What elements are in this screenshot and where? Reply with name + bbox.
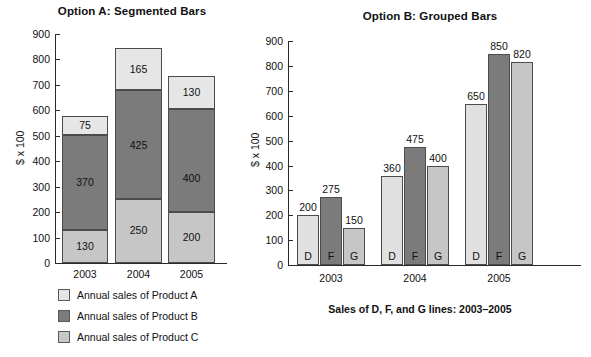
option-a-x-axis (55, 263, 227, 264)
option-b-series-letter-2005-f: F (488, 250, 510, 262)
legend-item-product-b[interactable]: Annual sales of Product B (58, 309, 238, 323)
option-a-y-axis-title: $ x 100 (14, 131, 26, 165)
option-a-seglabel-2004-product-a: 165 (115, 63, 162, 75)
option-a-ytick-label-200: 200 (20, 206, 50, 218)
option-b-y-axis-title: $ x 100 (249, 133, 261, 167)
option-a-tick-200 (56, 212, 60, 213)
option-b-ytick-label-300: 300 (253, 184, 283, 196)
option-a-y-axis (55, 34, 56, 264)
option-b-category-label-2005: 2005 (479, 272, 519, 284)
option-b-series-letter-2003-f: F (320, 250, 342, 262)
option-a-tick-0 (56, 263, 60, 264)
option-b-tick-0 (289, 265, 293, 266)
option-a-tick-300 (56, 187, 60, 188)
option-a-tick-400 (56, 161, 60, 162)
option-b-tick-800 (289, 66, 293, 67)
option-b-value-label-2005-g: 820 (506, 48, 538, 60)
option-a-category-label-2003: 2003 (62, 268, 108, 280)
option-a-category-label-2004: 2004 (115, 268, 162, 280)
chart-panel-option-a: Option A: Segmented Bars 900 800 700 600… (0, 0, 240, 357)
option-b-value-label-2004-g: 400 (422, 152, 454, 164)
option-b-tick-900 (289, 41, 293, 42)
option-b-series-letter-2004-d: D (381, 250, 403, 262)
option-b-plot-area: 900 800 700 600 500 400 300 200 100 0 $ … (240, 0, 591, 300)
option-b-ytick-label-0: 0 (253, 259, 283, 271)
option-a-ytick-label-900: 900 (20, 28, 50, 40)
option-a-seglabel-2003-product-b: 370 (62, 176, 108, 188)
option-b-series-letter-2003-g: G (343, 250, 365, 262)
option-a-tick-500 (56, 136, 60, 137)
option-b-x-axis (288, 265, 581, 266)
legend-item-product-a[interactable]: Annual sales of Product A (58, 288, 238, 302)
option-a-ytick-label-800: 800 (20, 53, 50, 65)
option-a-seglabel-2005-product-b: 400 (168, 172, 215, 184)
option-b-category-label-2004: 2004 (395, 272, 435, 284)
legend-swatch-product-c (58, 331, 70, 343)
option-b-series-letter-2005-g: G (511, 250, 533, 262)
option-b-category-label-2003: 2003 (311, 272, 351, 284)
option-b-series-letter-2004-g: G (427, 250, 449, 262)
option-b-tick-300 (289, 190, 293, 191)
option-a-tick-900 (56, 34, 60, 35)
legend-label-product-a: Annual sales of Product A (77, 288, 197, 302)
option-b-value-label-2004-f: 475 (399, 133, 431, 145)
legend-label-product-b: Annual sales of Product B (77, 309, 198, 323)
option-b-value-label-2003-f: 275 (315, 183, 347, 195)
option-b-tick-400 (289, 166, 293, 167)
option-b-ytick-label-200: 200 (253, 209, 283, 221)
chart-panel-option-b: Option B: Grouped Bars 900 800 700 600 5… (240, 0, 591, 357)
option-b-bar-2005-d[interactable] (465, 104, 487, 265)
option-a-tick-600 (56, 110, 60, 111)
option-b-bar-2004-f[interactable] (404, 147, 426, 265)
legend-swatch-product-b (58, 310, 70, 322)
option-b-tick-100 (289, 240, 293, 241)
legend-label-product-c: Annual sales of Product C (77, 330, 198, 344)
option-a-ytick-label-300: 300 (20, 181, 50, 193)
option-a-legend: Annual sales of Product A Annual sales o… (58, 288, 238, 348)
option-a-plot-area: 900 800 700 600 500 400 300 200 100 0 $ … (0, 0, 240, 290)
option-b-bar-2005-g[interactable] (511, 62, 533, 265)
option-a-ytick-label-100: 100 (20, 232, 50, 244)
legend-swatch-product-a (58, 289, 70, 301)
option-a-category-label-2005: 2005 (168, 268, 215, 280)
option-a-ytick-label-0: 0 (20, 257, 50, 269)
option-b-tick-500 (289, 141, 293, 142)
option-b-ytick-label-900: 900 (253, 35, 283, 47)
option-a-seglabel-2004-product-b: 425 (115, 139, 162, 151)
option-b-ytick-label-800: 800 (253, 60, 283, 72)
option-a-bar-2005-product-b[interactable] (168, 109, 215, 212)
option-b-ytick-label-600: 600 (253, 110, 283, 122)
option-b-tick-200 (289, 215, 293, 216)
option-a-seglabel-2003-product-c: 130 (62, 240, 108, 252)
option-a-seglabel-2005-product-c: 200 (168, 231, 215, 243)
option-b-series-letter-2004-f: F (404, 250, 426, 262)
option-a-seglabel-2003-product-a: 75 (62, 119, 108, 131)
option-b-series-letter-2005-d: D (465, 250, 487, 262)
option-a-tick-800 (56, 59, 60, 60)
option-b-ytick-label-700: 700 (253, 85, 283, 97)
option-a-tick-100 (56, 238, 60, 239)
option-b-tick-600 (289, 116, 293, 117)
option-a-tick-700 (56, 85, 60, 86)
option-b-y-axis (288, 41, 289, 266)
option-b-caption: Sales of D, F, and G lines: 2003–2005 (275, 303, 565, 315)
option-b-tick-700 (289, 91, 293, 92)
option-a-seglabel-2005-product-a: 130 (168, 86, 215, 98)
option-a-ytick-label-700: 700 (20, 79, 50, 91)
option-a-ytick-label-600: 600 (20, 104, 50, 116)
option-b-value-label-2003-g: 150 (338, 214, 370, 226)
option-b-ytick-label-100: 100 (253, 234, 283, 246)
option-b-series-letter-2003-d: D (297, 250, 319, 262)
legend-item-product-c[interactable]: Annual sales of Product C (58, 330, 238, 344)
option-a-seglabel-2004-product-c: 250 (115, 224, 162, 236)
option-b-bar-2005-f[interactable] (488, 54, 510, 265)
